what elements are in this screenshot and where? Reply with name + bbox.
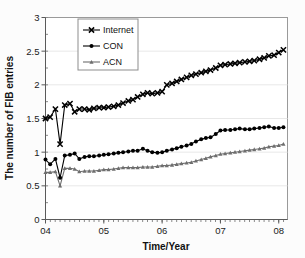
data-point-marker — [248, 127, 252, 131]
legend-label-con[interactable]: CON — [103, 41, 123, 51]
x-tick-label: 04 — [40, 225, 51, 236]
data-point-marker — [267, 125, 271, 129]
line-chart: 00.511.522.530405060708 InternetCONACN T… — [0, 0, 305, 258]
data-point-marker — [150, 150, 154, 154]
x-tick-label: 06 — [157, 225, 168, 236]
data-point-marker — [131, 149, 135, 153]
data-point-marker — [233, 127, 237, 131]
data-point-marker — [121, 150, 125, 154]
data-point-marker — [102, 153, 106, 157]
data-point-marker — [92, 154, 96, 158]
legend-sample-marker-con — [90, 44, 94, 48]
y-tick-label: 0 — [34, 214, 39, 225]
data-point-marker — [218, 129, 222, 133]
data-point-marker — [136, 149, 140, 153]
data-point-marker — [116, 151, 120, 155]
data-point-marker — [97, 154, 101, 158]
data-point-marker — [90, 44, 94, 48]
y-tick-label: 1 — [34, 147, 39, 158]
data-point-marker — [126, 149, 130, 153]
data-point-marker — [160, 150, 164, 154]
data-point-marker — [112, 152, 116, 156]
data-point-marker — [63, 154, 67, 158]
data-point-marker — [277, 126, 281, 130]
chart-figure: 00.511.522.530405060708 InternetCONACN T… — [0, 0, 305, 258]
data-point-marker — [204, 136, 208, 140]
data-point-marker — [141, 147, 145, 151]
data-point-marker — [238, 127, 242, 131]
data-point-marker — [175, 146, 179, 150]
data-point-marker — [48, 162, 52, 166]
data-point-marker — [53, 157, 57, 161]
data-point-marker — [170, 147, 174, 151]
data-point-marker — [223, 128, 227, 132]
data-point-marker — [155, 151, 159, 155]
y-tick-label: 1.5 — [26, 113, 39, 124]
data-point-marker — [77, 157, 81, 161]
data-point-marker — [83, 155, 87, 159]
data-point-marker — [243, 127, 247, 131]
data-point-marker — [258, 126, 262, 130]
y-tick-label: 0.5 — [26, 180, 39, 191]
y-tick-label: 2 — [34, 79, 39, 90]
data-point-marker — [272, 126, 276, 130]
data-point-marker — [165, 149, 169, 153]
data-point-marker — [214, 132, 218, 136]
x-tick-label: 05 — [99, 225, 110, 236]
data-point-marker — [58, 176, 62, 180]
data-point-marker — [179, 145, 183, 149]
data-point-marker — [194, 139, 198, 143]
y-tick-label: 3 — [34, 12, 39, 23]
x-tick-label: 08 — [273, 225, 284, 236]
data-point-marker — [146, 149, 150, 153]
data-point-marker — [87, 154, 91, 158]
data-point-marker — [68, 153, 72, 157]
data-point-marker — [252, 127, 256, 131]
data-point-marker — [281, 125, 285, 129]
y-tick-label: 2.5 — [26, 46, 39, 57]
y-axis-title: The number of FIB entries — [4, 56, 15, 180]
data-point-marker — [228, 128, 232, 132]
x-tick-label: 07 — [215, 225, 226, 236]
chart-legend[interactable]: InternetCONACN — [78, 19, 138, 70]
data-point-marker — [185, 143, 189, 147]
x-axis-title: Time/Year — [142, 241, 189, 252]
data-point-marker — [106, 152, 110, 156]
legend-label-internet[interactable]: Internet — [103, 25, 134, 35]
data-point-marker — [209, 135, 213, 139]
data-point-marker — [189, 142, 193, 146]
data-point-marker — [199, 137, 203, 141]
data-point-marker — [44, 158, 48, 162]
data-point-marker — [73, 152, 77, 156]
data-point-marker — [262, 125, 266, 129]
legend-label-acn[interactable]: ACN — [103, 57, 122, 67]
